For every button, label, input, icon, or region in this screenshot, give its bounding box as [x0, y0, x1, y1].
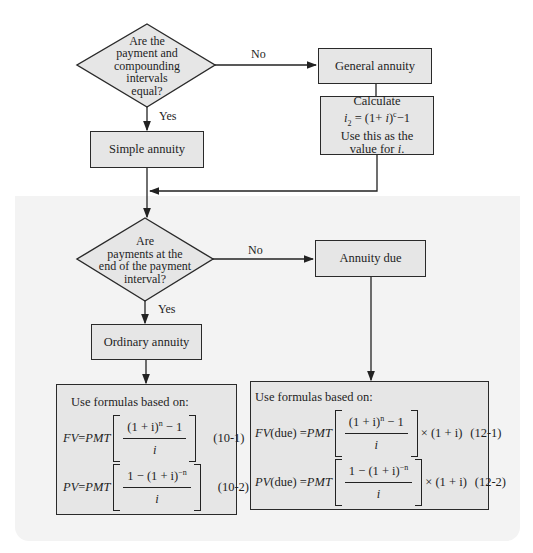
decision-1-no-label: No [251, 47, 266, 62]
general-annuity-box: General annuity [318, 48, 432, 84]
pv-due-formula: PV(due) = PMT 1 − (1 + i)−ni × (1 + i) (… [255, 463, 506, 502]
equation-ref-10-1: (10-1) [213, 431, 244, 446]
fv-due-formula: FV(due) = PMT (1 + i)n − 1i × (1 + i) (1… [255, 414, 502, 453]
formulas-heading: Use formulas based on: [71, 395, 189, 410]
formulas-heading: Use formulas based on: [255, 390, 373, 405]
annuity-due-formulas-box: Use formulas based on: FV(due) = PMT (1 … [250, 381, 489, 510]
decision-1-question: Are the payment and compounding interval… [97, 34, 197, 98]
ordinary-annuity-box: Ordinary annuity [91, 324, 202, 360]
equation-ref-10-2: (10-2) [218, 480, 249, 495]
annuity-due-box: Annuity due [315, 240, 426, 277]
decision-2-question: Are payments at the end of the payment i… [87, 233, 203, 287]
pv-formula: PV = PMT 1 − (1 + i)−ni (10-2) [63, 468, 249, 507]
equation-ref-12-1: (12-1) [470, 426, 501, 441]
equation-ref-12-2: (12-2) [475, 475, 506, 490]
ordinary-annuity-formulas-box: Use formulas based on: FV = PMT (1 + i)n… [56, 384, 237, 515]
decision-2-no-label: No [248, 243, 263, 258]
decision-1-yes-label: Yes [159, 109, 176, 124]
decision-2-yes-label: Yes [158, 302, 175, 317]
simple-annuity-box: Simple annuity [90, 131, 204, 168]
equivalent-rate-formula: i2 = (1+ i)c−1 [344, 108, 410, 130]
fv-formula: FV = PMT (1 + i)n − 1i (10-1) [63, 419, 245, 458]
calculate-rate-box: Calculate i2 = (1+ i)c−1 Use this as the… [320, 96, 434, 155]
